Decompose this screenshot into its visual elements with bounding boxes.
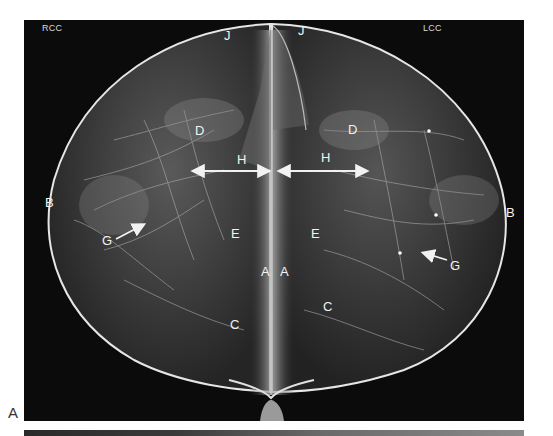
label-d-left: D (195, 124, 204, 137)
calcification-dot (398, 251, 402, 255)
label-a-left: A (261, 265, 270, 278)
label-j-right: J (298, 24, 305, 37)
view-label-lcc: LCC (423, 23, 442, 33)
label-c-right: C (323, 300, 332, 313)
calcification-dot (427, 129, 431, 133)
label-d-right: D (348, 123, 357, 136)
label-a-right: A (280, 265, 289, 278)
next-panel-edge (24, 430, 524, 436)
label-e-right: E (311, 227, 320, 240)
mammogram-figure: RCC LCC J J D D H H B B G G E E A A C C (24, 20, 524, 421)
label-b-right: B (506, 206, 515, 219)
label-j-left: J (224, 29, 231, 42)
label-e-left: E (231, 227, 240, 240)
label-g-right: G (450, 259, 460, 272)
view-label-rcc: RCC (42, 23, 62, 33)
label-g-left: G (102, 234, 112, 247)
label-c-left: C (230, 318, 239, 331)
mammogram-graphic (24, 20, 524, 421)
panel-label: A (8, 404, 18, 421)
label-b-left: B (45, 196, 54, 209)
label-h-right: H (321, 151, 330, 164)
label-h-left: H (237, 153, 246, 166)
calcification-dot (434, 213, 438, 217)
